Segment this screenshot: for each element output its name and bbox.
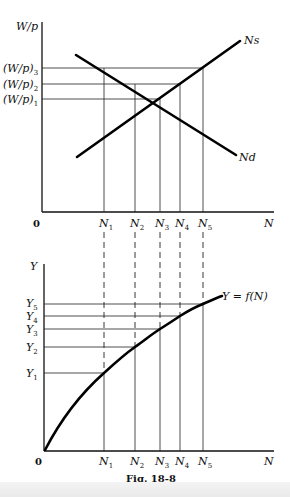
bottom-n3-label: N3 (154, 455, 169, 470)
bottom-y-axis-label: Y (30, 260, 39, 273)
supply-curve-label: Ns (243, 34, 260, 47)
svg-text:N5: N5 (197, 455, 212, 470)
top-panel: W/p N 0 Ns Nd (W/p)3 (W/p)2 (W/p)1 N1 N2… (3, 20, 274, 232)
labor-market-production-diagram: W/p N 0 Ns Nd (W/p)3 (W/p)2 (W/p)1 N1 N2… (0, 0, 290, 497)
svg-text:N4: N4 (174, 455, 190, 470)
top-n2-label: N2 (129, 217, 144, 232)
top-x-axis-label: N (263, 217, 274, 230)
svg-text:N2: N2 (129, 455, 144, 470)
bottom-n4-label: N4 (174, 455, 190, 470)
wp1-label: (W/p)1 (3, 93, 38, 108)
production-function-label: Y = f(N) (222, 290, 268, 303)
top-y-axis-label: W/p (16, 20, 38, 33)
svg-text:Y3: Y3 (26, 323, 38, 338)
svg-text:N1: N1 (98, 455, 113, 470)
bottom-x-axis-label: N (263, 455, 274, 468)
svg-text:Y2: Y2 (26, 341, 38, 356)
svg-text:(W/p)3: (W/p)3 (3, 62, 38, 77)
bottom-n2-label: N2 (129, 455, 144, 470)
bottom-n5-label: N5 (197, 455, 212, 470)
y3-label: Y3 (26, 323, 38, 338)
top-n4-label: N4 (174, 217, 190, 232)
page-bottom-band (0, 482, 290, 497)
bottom-origin-label: 0 (35, 456, 42, 467)
svg-text:(W/p)2: (W/p)2 (3, 78, 38, 93)
svg-text:N4: N4 (174, 217, 190, 232)
svg-text:N1: N1 (98, 217, 113, 232)
wp3-label: (W/p)3 (3, 62, 38, 77)
top-origin-label: 0 (33, 218, 40, 229)
svg-text:Y1: Y1 (26, 367, 38, 382)
top-n5-label: N5 (197, 217, 212, 232)
y1-label: Y1 (26, 367, 38, 382)
dashed-connectors (104, 232, 203, 373)
wp2-label: (W/p)2 (3, 78, 38, 93)
svg-text:N2: N2 (129, 217, 144, 232)
demand-curve-label: Nd (238, 151, 256, 164)
bottom-n1-label: N1 (98, 455, 113, 470)
top-n3-label: N3 (154, 217, 169, 232)
svg-text:N3: N3 (154, 217, 169, 232)
bottom-panel: Y N 0 Y = f(N) Y5 Y4 Y3 Y2 Y1 N1 N2 N3 N… (26, 260, 274, 470)
top-n1-label: N1 (98, 217, 113, 232)
svg-text:N3: N3 (154, 455, 169, 470)
svg-text:N5: N5 (197, 217, 212, 232)
svg-text:(W/p)1: (W/p)1 (3, 93, 38, 108)
y2-label: Y2 (26, 341, 38, 356)
